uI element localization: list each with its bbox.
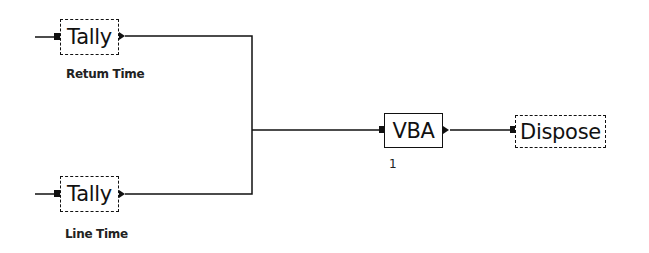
vba-caption: 1 — [389, 157, 396, 171]
tally1-caption: Retum Time — [66, 67, 144, 81]
vba-output-port[interactable] — [443, 126, 449, 134]
connector-tally1-to-vba[interactable] — [125, 36, 252, 130]
vba-module[interactable]: VBA — [384, 113, 443, 148]
tally2-module-label: Tally — [67, 182, 112, 206]
tally2-caption: Line Time — [65, 227, 128, 241]
tally2-module[interactable]: Tally — [60, 176, 119, 212]
flowchart-canvas: Tally Retum Time Tally Line Time VBA 1 D… — [0, 0, 649, 253]
tally1-output-port[interactable] — [119, 32, 125, 40]
vba-module-label: VBA — [392, 119, 434, 143]
connector-tally2-to-vba[interactable] — [125, 130, 252, 194]
tally1-module[interactable]: Tally — [60, 19, 119, 55]
tally1-module-label: Tally — [67, 25, 112, 49]
dispose-module-label: Dispose — [520, 120, 601, 144]
tally2-output-port[interactable] — [119, 190, 125, 198]
dispose-module[interactable]: Dispose — [515, 115, 606, 148]
